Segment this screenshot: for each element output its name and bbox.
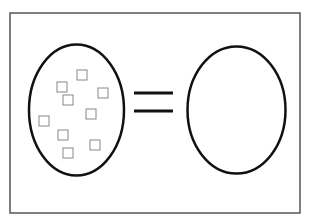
square-item: [77, 70, 87, 80]
square-item: [63, 148, 73, 158]
square-item: [98, 88, 108, 98]
right-oval-empty-set: [188, 47, 286, 174]
square-item: [57, 82, 67, 92]
square-item: [90, 140, 100, 150]
frame-border: [10, 13, 300, 213]
square-item: [58, 130, 68, 140]
square-item: [63, 95, 73, 105]
equality-diagram: [0, 0, 313, 221]
square-item: [86, 109, 96, 119]
square-item: [39, 116, 49, 126]
left-oval-set: [29, 45, 124, 176]
squares-group: [39, 70, 108, 158]
